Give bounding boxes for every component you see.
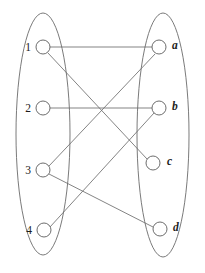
vertex-label-2: 2 [25,102,31,114]
vertex-node-4[interactable] [37,223,51,237]
vertex-label-3: 3 [25,164,31,176]
vertex-label-1: 1 [25,41,31,53]
vertex-label-c: c [167,155,172,167]
vertex-node-c[interactable] [146,156,160,170]
graph-canvas: 1234 abcd [0,0,205,273]
edges-group [48,47,155,227]
vertex-label-b: b [172,100,178,112]
vertex-label-d: d [173,221,179,233]
right-vertices-group: abcd [146,39,179,236]
vertex-label-4: 4 [26,224,32,236]
vertex-label-a: a [172,39,178,51]
vertex-node-d[interactable] [153,222,167,236]
left-vertices-group: 1234 [25,40,51,237]
edge-3-d [49,174,153,227]
vertex-node-a[interactable] [152,40,166,54]
vertex-node-2[interactable] [36,101,50,115]
edge-1-c [48,53,147,159]
vertex-node-1[interactable] [36,40,50,54]
vertex-node-b[interactable] [152,101,166,115]
bipartite-graph-diagram: 1234 abcd [0,0,205,273]
vertex-node-3[interactable] [36,163,50,177]
